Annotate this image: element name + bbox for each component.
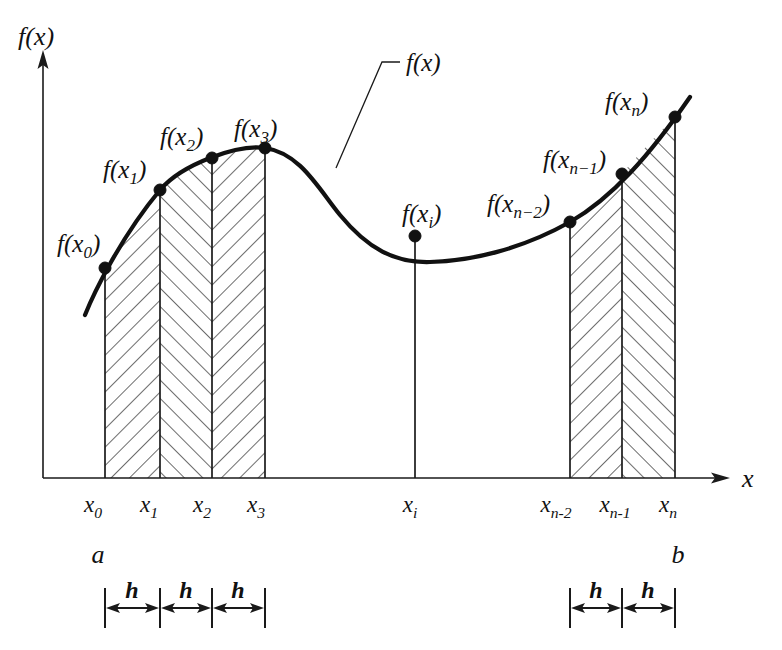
- x-tick-label-x3: x3: [246, 492, 265, 521]
- value-label-x3: f(x3): [234, 115, 277, 147]
- node-dot-xn-1: [616, 168, 628, 180]
- node-dot-x2: [206, 152, 218, 164]
- spacing-group-left: h h h: [105, 577, 265, 628]
- y-axis-label: f(x): [18, 22, 54, 51]
- node-dot-xn-2: [564, 216, 576, 228]
- spacing-label-right-1: h: [641, 577, 654, 603]
- x-tick-label-xn: xn: [658, 492, 677, 521]
- node-dot-x0: [99, 262, 111, 274]
- spacing-label-left-0: h: [125, 577, 138, 603]
- node-dot-xn: [669, 111, 681, 123]
- shaded-strip-x1-x2: [160, 158, 212, 478]
- x-tick-label-x0: x0: [83, 492, 102, 521]
- value-label-xi: f(xi): [402, 200, 441, 232]
- value-label-xn-1: f(xn−1): [543, 146, 606, 178]
- curve-label: f(x): [406, 49, 441, 77]
- interval-start-label: a: [92, 540, 105, 569]
- diagram-canvas: f(x) x f(x) f(x0) f(x1) f(x2) f(x3) f(xi…: [0, 0, 782, 650]
- curve-label-leader-line: [336, 62, 400, 168]
- x-tick-label-xn-2: xn-2: [539, 492, 571, 521]
- shaded-strip-x2-x3: [212, 148, 265, 478]
- spacing-label-right-0: h: [589, 577, 602, 603]
- shaded-strip-x0-x1: [105, 190, 160, 478]
- spacing-label-left-1: h: [179, 577, 192, 603]
- node-dot-x1: [154, 184, 166, 196]
- integration-figure: f(x) x f(x) f(x0) f(x1) f(x2) f(x3) f(xi…: [0, 0, 782, 650]
- value-label-x1: f(x1): [103, 156, 146, 188]
- x-axis-label: x: [741, 464, 754, 493]
- x-tick-label-xn-1: xn-1: [598, 492, 630, 521]
- x-tick-labels-group: x0 x1 x2 x3 xi xn-2 xn-1 xn: [83, 492, 677, 521]
- value-label-xn-2: f(xn−2): [487, 190, 550, 222]
- node-dot-xi: [409, 230, 421, 242]
- value-label-x0: f(x0): [57, 230, 100, 262]
- spacing-label-left-2: h: [231, 577, 244, 603]
- interval-end-label: b: [672, 540, 685, 569]
- value-label-xn: f(xn): [605, 88, 648, 120]
- x-tick-label-x1: x1: [139, 492, 158, 521]
- spacing-group-right: h h: [570, 577, 675, 628]
- x-tick-label-x2: x2: [192, 492, 211, 521]
- value-label-x2: f(x2): [160, 123, 203, 155]
- x-tick-label-xi: xi: [402, 492, 418, 521]
